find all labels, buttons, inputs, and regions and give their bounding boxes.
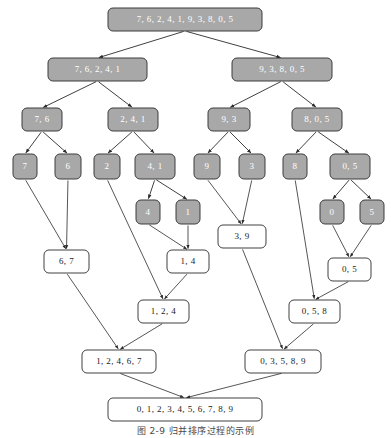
node-label: 0, 1, 2, 3, 4, 5, 6, 7, 8, 9: [137, 404, 234, 414]
node-m058[interactable]: 0, 5, 8: [289, 300, 340, 323]
edge-m12467-to-final: [120, 374, 183, 398]
node-m12467[interactable]: 1, 2, 4, 6, 7: [82, 350, 156, 373]
edge-m124-to-m12467: [120, 324, 162, 349]
edge-m39-to-m03589: [243, 249, 283, 348]
edge-n41-to-n1: [156, 180, 186, 199]
node-n6[interactable]: 6: [55, 154, 81, 179]
edge-L2b-to-n41: [134, 132, 154, 153]
merge-sort-figure: 7, 6, 2, 4, 1, 9, 3, 8, 0, 57, 6, 2, 4, …: [0, 0, 391, 438]
edge-m67-to-m12467: [67, 274, 118, 349]
node-n0[interactable]: 0: [320, 200, 344, 224]
node-label: 0, 5: [342, 161, 357, 171]
edge-n0-to-m05: [333, 225, 349, 256]
edge-n05s-to-n0: [333, 180, 349, 199]
node-label: 6: [66, 161, 71, 171]
node-label: 3, 9: [234, 231, 249, 241]
node-m67[interactable]: 6, 7: [44, 250, 89, 273]
node-label: 0: [330, 207, 335, 217]
node-label: 2, 4, 1: [120, 114, 145, 124]
node-n3[interactable]: 3: [239, 154, 265, 179]
node-label: 0, 5, 8: [302, 306, 327, 316]
node-root[interactable]: 7, 6, 2, 4, 1, 9, 3, 8, 0, 5: [108, 8, 262, 31]
node-m14[interactable]: 1, 4: [167, 250, 209, 273]
edge-n3-to-m39: [242, 180, 251, 223]
edge-R2b-to-n05s: [318, 132, 349, 153]
node-m124[interactable]: 1, 2, 4: [138, 300, 189, 323]
edge-root-to-L1: [99, 31, 184, 57]
edge-R1-to-R2b: [283, 82, 316, 107]
node-label: 5: [370, 207, 375, 217]
node-L2b[interactable]: 2, 4, 1: [108, 108, 158, 131]
edge-n5-to-m05: [350, 225, 371, 256]
node-n1[interactable]: 1: [176, 200, 200, 224]
node-n9[interactable]: 9: [194, 154, 220, 179]
edge-R1-to-R2a: [230, 82, 280, 108]
edge-m058-to-m03589: [284, 324, 313, 349]
edge-n8-to-m058: [295, 180, 314, 298]
node-label: 1, 2, 4: [151, 306, 176, 316]
edge-n2-to-m124: [108, 180, 163, 298]
edge-n6-to-m67: [67, 180, 68, 248]
edge-m05-to-m058: [316, 282, 348, 300]
node-n4[interactable]: 4: [136, 200, 160, 224]
node-label: 6, 7: [59, 256, 74, 266]
node-label: 2: [105, 161, 110, 171]
node-n41[interactable]: 4, 1: [135, 154, 175, 179]
node-label: 4: [146, 207, 151, 217]
node-label: 7, 6, 2, 4, 1, 9, 3, 8, 0, 5: [137, 14, 234, 24]
node-label: 8, 0, 5: [304, 114, 329, 124]
node-label: 0, 3, 5, 8, 9: [260, 356, 306, 366]
node-final[interactable]: 0, 1, 2, 3, 4, 5, 6, 7, 8, 9: [108, 398, 262, 421]
node-L1[interactable]: 7, 6, 2, 4, 1: [48, 58, 147, 81]
edge-R2a-to-n9: [208, 132, 228, 153]
node-n05s[interactable]: 0, 5: [330, 154, 370, 179]
node-label: 1, 2, 4, 6, 7: [96, 356, 142, 366]
node-n5[interactable]: 5: [360, 200, 384, 224]
node-label: 8: [293, 161, 298, 171]
node-label: 1: [186, 207, 191, 217]
node-label: 7, 6, 2, 4, 1: [75, 64, 121, 74]
edge-n7-to-m67: [26, 180, 66, 248]
node-R1[interactable]: 9, 3, 8, 0, 5: [232, 58, 332, 81]
node-n2[interactable]: 2: [94, 154, 120, 179]
node-m05[interactable]: 0, 5: [328, 258, 371, 281]
edge-m14-to-m124: [165, 274, 187, 299]
edge-L1-to-L2a: [43, 82, 96, 108]
node-label: 7: [23, 161, 28, 171]
edge-L2a-to-n6: [43, 132, 67, 153]
node-label: 0, 5: [342, 264, 357, 274]
node-layer: 7, 6, 2, 4, 1, 9, 3, 8, 0, 57, 6, 2, 4, …: [13, 8, 384, 421]
edge-n4-to-m14: [149, 225, 186, 249]
node-label: 9: [205, 161, 210, 171]
node-L2a[interactable]: 7, 6: [22, 108, 62, 131]
node-label: 9, 3: [221, 114, 236, 124]
edge-R2b-to-n8: [296, 132, 316, 153]
node-label: 7, 6: [34, 114, 49, 124]
merge-sort-diagram: 7, 6, 2, 4, 1, 9, 3, 8, 0, 57, 6, 2, 4, …: [0, 0, 391, 438]
node-label: 3: [250, 161, 255, 171]
edge-root-to-R1: [186, 31, 280, 57]
figure-caption: 图 2-9 归并排序过程的示例: [0, 424, 391, 437]
edge-L1-to-L2b: [99, 82, 132, 107]
edge-n41-to-n4: [148, 180, 154, 198]
node-R2b[interactable]: 8, 0, 5: [292, 108, 342, 131]
node-label: 9, 3, 8, 0, 5: [259, 64, 305, 74]
edge-L2b-to-n2: [108, 132, 132, 153]
node-m03589[interactable]: 0, 3, 5, 8, 9: [245, 350, 321, 373]
node-label: 4, 1: [147, 161, 162, 171]
edge-m03589-to-final: [186, 373, 281, 397]
node-R2a[interactable]: 9, 3: [208, 108, 250, 131]
edge-n9-to-m39: [208, 180, 241, 224]
edge-R2a-to-n3: [230, 132, 251, 153]
node-m39[interactable]: 3, 9: [218, 225, 266, 248]
edge-n05s-to-n5: [351, 180, 371, 199]
edge-L2a-to-n7: [26, 132, 41, 153]
node-label: 1, 4: [180, 256, 195, 266]
node-n8[interactable]: 8: [283, 154, 307, 179]
node-n7[interactable]: 7: [13, 154, 37, 179]
